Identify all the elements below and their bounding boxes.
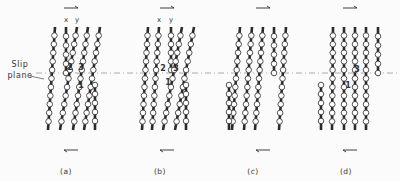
atom-circle: [259, 41, 265, 47]
atom-circle: [318, 82, 324, 88]
atom-circle: [50, 59, 56, 65]
atom-circle: [244, 93, 250, 99]
atom-circle: [226, 118, 232, 124]
atom-circle: [63, 93, 69, 99]
atom-circle: [71, 41, 77, 47]
atom-circle: [318, 100, 324, 106]
atom-circle: [226, 82, 232, 88]
atom-number-3: 3: [354, 65, 360, 74]
atom-circle: [330, 59, 336, 65]
atom-circle: [190, 33, 196, 39]
atom-circle: [236, 41, 242, 47]
atom-circle: [152, 93, 158, 99]
atom-circle: [226, 109, 232, 115]
atom-circle: [153, 67, 159, 73]
panel-c-atom-chain: [277, 27, 288, 130]
atom-circle: [92, 100, 98, 106]
shear-arrow-left-icon: [64, 150, 78, 152]
panel-c-atom-chain: [242, 27, 254, 130]
atom-circle: [277, 119, 283, 125]
atom-circle: [352, 84, 358, 90]
atom-circle: [341, 101, 347, 107]
shear-arrow-left-icon: [160, 150, 174, 152]
atom-circle: [182, 76, 188, 82]
panel-c-atom-chain: [253, 27, 265, 130]
atom-number-2: 2: [160, 64, 166, 73]
atom-circle: [330, 33, 336, 39]
atom-circle: [85, 101, 91, 107]
atom-circle: [48, 93, 54, 99]
atom-circle: [282, 41, 288, 47]
atom-circle: [177, 101, 183, 107]
atom-circle: [352, 33, 358, 39]
atom-circle: [143, 67, 149, 73]
atom-circle: [375, 33, 381, 39]
atom-circle: [145, 33, 151, 39]
atom-circle: [363, 84, 369, 90]
atom-circle: [363, 110, 369, 116]
atom-circle: [352, 119, 358, 125]
atom-circle: [156, 33, 162, 39]
atom-circle: [63, 52, 69, 58]
atom-circle: [154, 50, 160, 56]
atom-circle: [256, 84, 262, 90]
panel-d-atom-chain: [375, 27, 381, 76]
atom-circle: [155, 41, 161, 47]
atom-circle: [95, 41, 101, 47]
atom-circle: [174, 50, 180, 56]
atom-circle: [318, 109, 324, 115]
atom-circle: [352, 110, 358, 116]
atom-circle: [245, 84, 251, 90]
atom-circle: [271, 43, 277, 49]
atom-circle: [140, 110, 146, 116]
atom-circle: [92, 109, 98, 115]
panel-d-atom-chain: [341, 27, 347, 130]
atom-circle: [363, 33, 369, 39]
atom-circle: [74, 101, 80, 107]
shear-arrow-right-icon: [160, 6, 174, 8]
slip-plane-label: Slip: [11, 60, 28, 69]
atom-circle: [256, 76, 262, 82]
atom-circle: [341, 50, 347, 56]
atom-circle: [185, 59, 191, 65]
atom-circle: [279, 84, 285, 90]
atom-circle: [96, 33, 102, 39]
panel-c-atom-chain: [226, 82, 232, 130]
atom-circle: [183, 91, 189, 97]
atom-circle: [46, 110, 52, 116]
atom-circle: [168, 33, 174, 39]
atom-circle: [318, 118, 324, 124]
atom-circle: [281, 50, 287, 56]
atom-number-2: 2: [67, 63, 73, 72]
atom-circle: [141, 93, 147, 99]
atom-circle: [329, 110, 335, 116]
atom-number-1: 1: [345, 81, 351, 90]
atom-circle: [154, 59, 160, 65]
atom-circle: [84, 110, 90, 116]
atom-circle: [363, 41, 369, 47]
atom-circle: [255, 93, 261, 99]
atom-circle: [254, 101, 260, 107]
atom-circle: [183, 67, 189, 73]
atom-circle: [226, 91, 232, 97]
atom-circle: [71, 119, 77, 125]
atom-circle: [352, 76, 358, 82]
atom-circle: [279, 93, 285, 99]
atom-circle: [49, 67, 55, 73]
atom-number-3: 3: [78, 63, 84, 72]
atom-circle: [258, 50, 264, 56]
atom-circle: [330, 84, 336, 90]
atom-circle: [183, 109, 189, 115]
atom-circle: [52, 33, 58, 39]
panel-d-atom-chain: [329, 27, 335, 130]
atom-circle: [363, 93, 369, 99]
atom-circle: [375, 70, 381, 76]
atom-circle: [73, 110, 79, 116]
atom-circle: [92, 59, 98, 65]
atom-circle: [283, 33, 289, 39]
atom-circle: [375, 52, 381, 58]
atom-circle: [330, 67, 336, 73]
chain-label-x: x: [157, 16, 161, 24]
atom-circle: [352, 59, 358, 65]
atom-circle: [247, 50, 253, 56]
